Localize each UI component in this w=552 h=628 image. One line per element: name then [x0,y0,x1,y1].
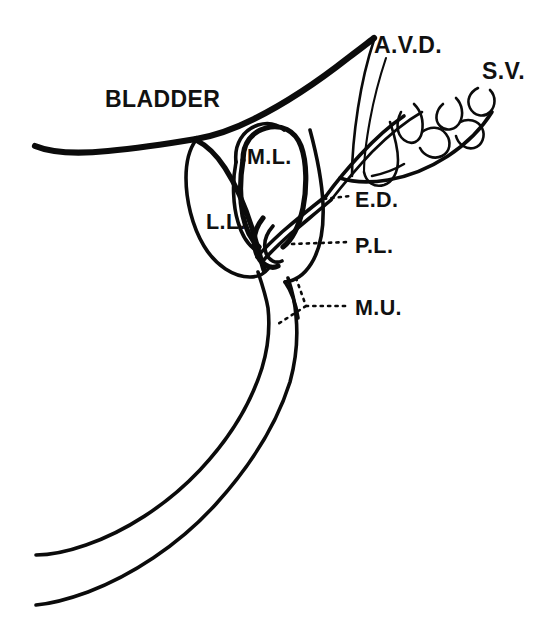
label-median-lobe: M.L. [247,145,292,169]
label-seminal-vesicle: S.V. [482,58,525,84]
label-bladder: BLADDER [105,86,220,112]
label-posterior-lobe: P.L. [355,234,393,258]
anatomy-illustration: BLADDER A.V.D. S.V. M.L. L.L. E.D. P.L. … [0,0,552,628]
diagram-background [0,0,552,628]
label-membranous-urethra: M.U. [355,296,402,320]
anatomy-diagram: BLADDER A.V.D. S.V. M.L. L.L. E.D. P.L. … [0,0,552,628]
label-ejaculatory-duct: E.D. [355,188,398,212]
label-lateral-lobe: L.L. [206,210,246,234]
label-ampulla-vas-deferens: A.V.D. [374,32,442,58]
